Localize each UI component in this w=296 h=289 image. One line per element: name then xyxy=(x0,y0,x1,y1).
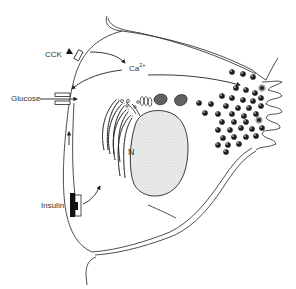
arrow-insulin-to-rer xyxy=(83,186,100,204)
cck-label: CCK xyxy=(45,50,62,59)
calcium-charge: 2+ xyxy=(139,62,145,68)
glucose-label: Glucose xyxy=(11,94,40,103)
cck-ligand-icon xyxy=(66,48,73,54)
calcium-symbol: Ca xyxy=(129,64,139,73)
condensing-vacuoles xyxy=(154,94,187,106)
cell-diagram xyxy=(0,0,296,289)
cck-receptor xyxy=(66,48,83,61)
apical-microvilli xyxy=(256,81,282,150)
calcium-label: Ca2+ xyxy=(129,62,146,73)
insulin-label: Insulin xyxy=(41,201,64,210)
golgi-apparatus xyxy=(121,97,152,109)
arrow-calcium-to-granules xyxy=(148,75,240,85)
zymogen-granules xyxy=(196,69,265,154)
arrow-calcium-to-glucose-transporter xyxy=(72,70,122,89)
arrow-cck-to-calcium xyxy=(90,52,125,63)
nucleus-label: N xyxy=(128,147,135,157)
insulin-receptor xyxy=(70,193,81,217)
nucleus xyxy=(130,111,188,196)
